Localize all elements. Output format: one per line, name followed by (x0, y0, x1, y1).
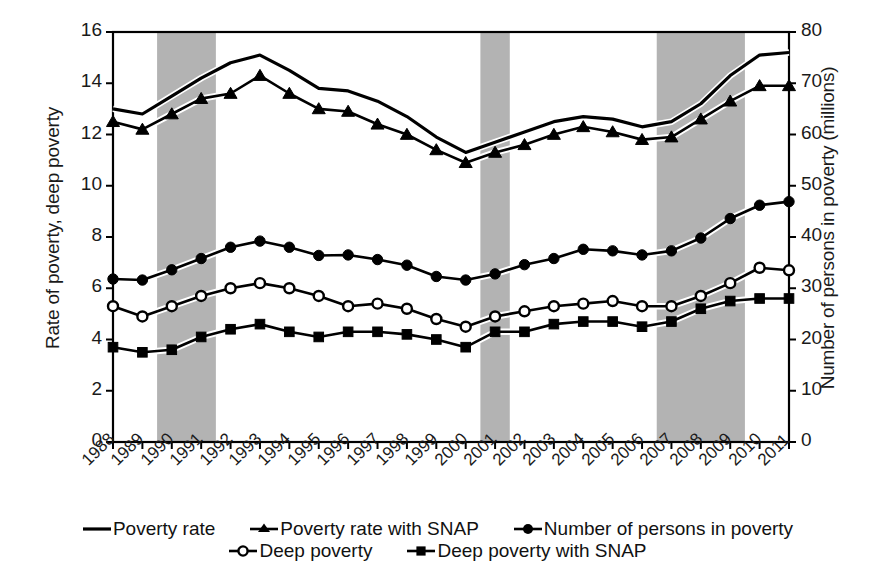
legend-row-1: Poverty ratePoverty rate with SNAPNumber… (0, 518, 875, 540)
data-point-deep-poverty-2006 (637, 301, 647, 311)
data-point-number-of-persons-in-poverty-1990 (167, 265, 177, 275)
data-point-deep-poverty-with-snap-1999 (432, 335, 442, 345)
data-point-deep-poverty-with-snap-1989 (138, 348, 148, 358)
y-tick-label-right-50: 50 (801, 173, 851, 195)
data-point-deep-poverty-2008 (696, 291, 706, 301)
data-point-number-of-persons-in-poverty-2005 (607, 246, 617, 256)
data-point-number-of-persons-in-poverty-1998 (402, 260, 412, 270)
data-point-deep-poverty-2010 (755, 263, 765, 273)
data-point-deep-poverty-with-snap-2011 (784, 294, 794, 304)
data-point-deep-poverty-1993 (255, 278, 265, 288)
data-point-deep-poverty-with-snap-1992 (226, 324, 236, 334)
y-tick-label-right-70: 70 (801, 70, 851, 92)
legend-marker-square-filled-icon (406, 543, 436, 559)
legend-label: Deep poverty (259, 540, 372, 562)
data-point-deep-poverty-2007 (666, 301, 676, 311)
y-tick-label-left-12: 12 (40, 122, 102, 144)
data-point-deep-poverty-2011 (784, 265, 794, 275)
shaded-region-recession-2001 (480, 32, 509, 442)
plot-canvas (0, 0, 875, 586)
y-tick-label-right-60: 60 (801, 122, 851, 144)
data-point-number-of-persons-in-poverty-1996 (343, 250, 353, 260)
data-point-number-of-persons-in-poverty-1989 (137, 275, 147, 285)
data-point-deep-poverty-with-snap-2007 (667, 317, 677, 327)
data-point-deep-poverty-with-snap-2001 (490, 327, 500, 337)
data-point-deep-poverty-2002 (519, 306, 529, 316)
data-point-deep-poverty-with-snap-1997 (373, 327, 383, 337)
legend-key (228, 543, 258, 559)
legend-marker-circle-filled-icon (513, 521, 543, 537)
data-point-deep-poverty-1997 (373, 299, 383, 309)
legend-marker-none-icon (82, 521, 112, 537)
legend-marker-triangle-icon (249, 521, 279, 537)
data-point-deep-poverty-with-snap-1991 (196, 332, 206, 342)
y-tick-label-right-10: 10 (801, 378, 851, 400)
data-point-number-of-persons-in-poverty-1991 (196, 253, 206, 263)
data-point-number-of-persons-in-poverty-1999 (431, 271, 441, 281)
data-point-deep-poverty-2001 (490, 311, 500, 321)
data-point-deep-poverty-with-snap-1993 (255, 319, 265, 329)
data-point-deep-poverty-1989 (137, 311, 147, 321)
data-point-deep-poverty-2003 (549, 301, 559, 311)
data-point-deep-poverty-with-snap-2005 (608, 317, 618, 327)
data-point-deep-poverty-1999 (431, 314, 441, 324)
poverty-chart-figure: Rate of poverty, deep poverty Number of … (0, 0, 875, 586)
data-point-deep-poverty-with-snap-2008 (696, 304, 706, 314)
legend-item-poverty-rate-with-snap[interactable]: Poverty rate with SNAP (249, 518, 479, 540)
y-tick-label-left-10: 10 (40, 173, 102, 195)
legend-item-number-of-persons-in-poverty[interactable]: Number of persons in poverty (513, 518, 793, 540)
legend-item-deep-poverty[interactable]: Deep poverty (228, 540, 372, 562)
data-point-number-of-persons-in-poverty-2004 (578, 244, 588, 254)
data-point-number-of-persons-in-poverty-2008 (696, 233, 706, 243)
data-point-deep-poverty-2009 (725, 278, 735, 288)
data-point-deep-poverty-2004 (578, 299, 588, 309)
data-point-deep-poverty-1994 (284, 283, 294, 293)
y-tick-label-left-2: 2 (40, 378, 102, 400)
data-point-number-of-persons-in-poverty-2002 (519, 259, 529, 269)
data-point-number-of-persons-in-poverty-2001 (490, 269, 500, 279)
data-point-deep-poverty-1990 (167, 301, 177, 311)
y-tick-label-left-4: 4 (40, 327, 102, 349)
data-point-deep-poverty-1995 (314, 291, 324, 301)
data-point-number-of-persons-in-poverty-2003 (549, 253, 559, 263)
data-point-deep-poverty-with-snap-1990 (167, 345, 177, 355)
legend-item-poverty-rate[interactable]: Poverty rate (82, 518, 215, 540)
legend-label: Poverty rate with SNAP (280, 518, 479, 540)
data-point-deep-poverty-with-snap-2003 (549, 319, 559, 329)
legend-label: Number of persons in poverty (544, 518, 793, 540)
y-tick-label-left-6: 6 (40, 275, 102, 297)
y-tick-label-right-20: 20 (801, 327, 851, 349)
data-point-deep-poverty-1988 (108, 301, 118, 311)
data-point-deep-poverty-1992 (226, 283, 236, 293)
data-point-number-of-persons-in-poverty-1995 (314, 250, 324, 260)
legend-key (249, 521, 279, 537)
data-point-deep-poverty-with-snap-2004 (578, 317, 588, 327)
data-point-number-of-persons-in-poverty-2006 (637, 250, 647, 260)
data-point-deep-poverty-1996 (343, 301, 353, 311)
y-tick-label-right-30: 30 (801, 275, 851, 297)
data-point-deep-poverty-with-snap-2006 (637, 322, 647, 332)
data-point-deep-poverty-with-snap-2000 (461, 342, 471, 352)
data-point-number-of-persons-in-poverty-1997 (372, 254, 382, 264)
y-tick-label-right-80: 80 (801, 19, 851, 41)
shaded-region-recession-1990-1991 (157, 32, 216, 442)
legend-row-2: Deep povertyDeep poverty with SNAP (0, 540, 875, 562)
legend-key (406, 543, 436, 559)
data-point-deep-poverty-with-snap-2010 (755, 294, 765, 304)
y-tick-label-right-0: 0 (801, 429, 851, 451)
data-point-number-of-persons-in-poverty-1988 (108, 274, 118, 284)
data-point-deep-poverty-with-snap-1988 (108, 342, 118, 352)
legend-item-deep-poverty-with-snap[interactable]: Deep poverty with SNAP (406, 540, 646, 562)
chart-legend: Poverty ratePoverty rate with SNAPNumber… (0, 518, 875, 562)
data-point-number-of-persons-in-poverty-2010 (754, 200, 764, 210)
data-point-deep-poverty-with-snap-1995 (314, 332, 324, 342)
data-point-deep-poverty-with-snap-1998 (402, 330, 412, 340)
data-point-deep-poverty-with-snap-1994 (285, 327, 295, 337)
data-point-deep-poverty-with-snap-1996 (343, 327, 353, 337)
legend-key (513, 521, 543, 537)
y-tick-label-left-8: 8 (40, 224, 102, 246)
data-point-deep-poverty-with-snap-2002 (520, 327, 530, 337)
legend-label: Poverty rate (113, 518, 215, 540)
y-tick-label-right-40: 40 (801, 224, 851, 246)
data-point-number-of-persons-in-poverty-1992 (225, 242, 235, 252)
